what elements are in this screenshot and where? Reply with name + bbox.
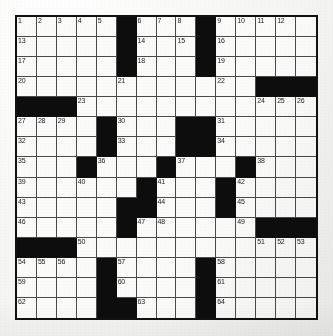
crossword-cell[interactable]	[137, 97, 157, 117]
crossword-cell[interactable]: 38	[256, 157, 276, 177]
crossword-cell[interactable]: 7	[157, 17, 177, 37]
crossword-cell[interactable]: 49	[236, 218, 256, 238]
crossword-cell[interactable]	[236, 258, 256, 278]
crossword-cell[interactable]: 11	[256, 17, 276, 37]
crossword-cell[interactable]: 47	[137, 218, 157, 238]
crossword-cell[interactable]: 44	[157, 198, 177, 218]
crossword-cell[interactable]: 24	[256, 97, 276, 117]
crossword-cell[interactable]: 40	[77, 178, 97, 198]
crossword-cell[interactable]	[296, 157, 316, 177]
crossword-cell[interactable]	[196, 218, 216, 238]
crossword-cell[interactable]	[276, 57, 296, 77]
crossword-cell[interactable]: 60	[117, 278, 137, 298]
crossword-cell[interactable]	[37, 278, 57, 298]
crossword-cell[interactable]	[276, 137, 296, 157]
crossword-cell[interactable]: 17	[17, 57, 37, 77]
crossword-cell[interactable]: 3	[57, 17, 77, 37]
crossword-cell[interactable]	[97, 37, 117, 57]
crossword-cell[interactable]: 62	[17, 298, 37, 318]
crossword-cell[interactable]: 56	[57, 258, 77, 278]
crossword-cell[interactable]	[256, 298, 276, 318]
crossword-cell[interactable]	[117, 157, 137, 177]
crossword-cell[interactable]: 26	[296, 97, 316, 117]
crossword-cell[interactable]: 46	[17, 218, 37, 238]
crossword-cell[interactable]	[296, 178, 316, 198]
crossword-cell[interactable]: 21	[117, 77, 137, 97]
crossword-cell[interactable]	[236, 57, 256, 77]
crossword-cell[interactable]	[276, 178, 296, 198]
crossword-cell[interactable]: 64	[216, 298, 236, 318]
crossword-cell[interactable]	[236, 97, 256, 117]
crossword-cell[interactable]	[37, 37, 57, 57]
crossword-cell[interactable]	[276, 278, 296, 298]
crossword-cell[interactable]	[256, 278, 276, 298]
crossword-cell[interactable]	[137, 258, 157, 278]
crossword-cell[interactable]: 4	[77, 17, 97, 37]
crossword-cell[interactable]: 25	[276, 97, 296, 117]
crossword-cell[interactable]	[77, 37, 97, 57]
crossword-cell[interactable]	[256, 137, 276, 157]
crossword-cell[interactable]	[77, 218, 97, 238]
crossword-cell[interactable]	[236, 238, 256, 258]
crossword-cell[interactable]	[296, 278, 316, 298]
crossword-cell[interactable]	[216, 97, 236, 117]
crossword-cell[interactable]	[77, 258, 97, 278]
crossword-cell[interactable]: 45	[236, 198, 256, 218]
crossword-cell[interactable]	[57, 178, 77, 198]
crossword-cell[interactable]	[296, 117, 316, 137]
crossword-cell[interactable]	[196, 238, 216, 258]
crossword-cell[interactable]	[57, 278, 77, 298]
crossword-cell[interactable]	[157, 117, 177, 137]
crossword-cell[interactable]	[57, 137, 77, 157]
crossword-cell[interactable]	[256, 117, 276, 137]
crossword-cell[interactable]	[176, 298, 196, 318]
crossword-cell[interactable]: 34	[216, 137, 236, 157]
crossword-cell[interactable]	[196, 178, 216, 198]
crossword-cell[interactable]	[77, 198, 97, 218]
crossword-cell[interactable]	[296, 57, 316, 77]
crossword-cell[interactable]	[276, 117, 296, 137]
crossword-cell[interactable]: 2	[37, 17, 57, 37]
crossword-cell[interactable]	[296, 37, 316, 57]
crossword-cell[interactable]	[236, 137, 256, 157]
crossword-cell[interactable]	[77, 117, 97, 137]
crossword-cell[interactable]	[256, 258, 276, 278]
crossword-cell[interactable]	[77, 137, 97, 157]
crossword-cell[interactable]	[137, 238, 157, 258]
crossword-cell[interactable]: 15	[176, 37, 196, 57]
crossword-cell[interactable]: 59	[17, 278, 37, 298]
crossword-cell[interactable]	[117, 178, 137, 198]
crossword-cell[interactable]: 61	[216, 278, 236, 298]
crossword-cell[interactable]: 23	[77, 97, 97, 117]
crossword-cell[interactable]: 55	[37, 258, 57, 278]
crossword-cell[interactable]: 41	[157, 178, 177, 198]
crossword-cell[interactable]: 58	[216, 258, 236, 278]
crossword-cell[interactable]: 27	[17, 117, 37, 137]
crossword-cell[interactable]: 33	[117, 137, 137, 157]
crossword-cell[interactable]: 1	[17, 17, 37, 37]
crossword-cell[interactable]	[77, 278, 97, 298]
crossword-cell[interactable]	[57, 57, 77, 77]
crossword-cell[interactable]	[176, 97, 196, 117]
crossword-cell[interactable]: 22	[216, 77, 236, 97]
crossword-cell[interactable]	[157, 97, 177, 117]
crossword-cell[interactable]	[256, 198, 276, 218]
crossword-cell[interactable]: 53	[296, 238, 316, 258]
crossword-cell[interactable]: 10	[236, 17, 256, 37]
crossword-cell[interactable]: 18	[137, 57, 157, 77]
crossword-cell[interactable]	[37, 57, 57, 77]
crossword-cell[interactable]: 5	[97, 17, 117, 37]
crossword-cell[interactable]	[117, 238, 137, 258]
crossword-cell[interactable]	[137, 137, 157, 157]
crossword-cell[interactable]	[97, 238, 117, 258]
crossword-cell[interactable]	[157, 298, 177, 318]
crossword-cell[interactable]	[236, 77, 256, 97]
crossword-cell[interactable]	[37, 178, 57, 198]
crossword-cell[interactable]	[296, 298, 316, 318]
crossword-cell[interactable]	[176, 238, 196, 258]
crossword-cell[interactable]	[276, 298, 296, 318]
crossword-cell[interactable]	[196, 157, 216, 177]
crossword-cell[interactable]: 39	[17, 178, 37, 198]
crossword-cell[interactable]: 29	[57, 117, 77, 137]
crossword-cell[interactable]	[77, 77, 97, 97]
